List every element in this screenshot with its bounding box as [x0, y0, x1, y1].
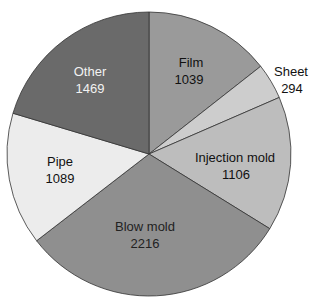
label-film-value: 1039: [175, 72, 204, 87]
label-other-name: Other: [74, 64, 107, 79]
label-blow-mold-value: 2216: [131, 236, 160, 251]
label-film-name: Film: [179, 55, 204, 70]
label-sheet-value: 294: [281, 81, 303, 96]
label-injection-mold-name: Injection mold: [195, 150, 275, 165]
label-other-value: 1469: [76, 81, 105, 96]
label-pipe-name: Pipe: [47, 154, 73, 169]
label-injection-mold-value: 1106: [222, 167, 250, 182]
pie-chart: Film 1039 Sheet 294 Injection mold 1106 …: [0, 0, 311, 306]
label-sheet-name: Sheet: [274, 64, 308, 79]
label-pipe-value: 1089: [46, 171, 75, 186]
label-blow-mold-name: Blow mold: [115, 219, 175, 234]
